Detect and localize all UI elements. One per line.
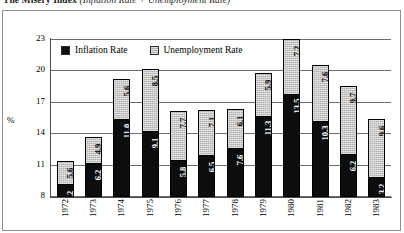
bar-group[interactable]: 4.96.2 <box>85 39 102 197</box>
bar-value-label: 7.6 <box>235 155 244 166</box>
x-tick-cell: 1982 <box>340 199 357 217</box>
x-axis-tick-labels: 1972197319741975197619771978197919801981… <box>51 199 391 233</box>
bar-value-label: 4.9 <box>93 144 102 155</box>
legend-label-unemployment: Unemployment Rate <box>164 45 243 55</box>
x-tick-cell: 1972 <box>57 199 74 217</box>
bar-group[interactable]: 5.911.3 <box>255 39 272 197</box>
bar-segment-unemployment[interactable]: 9.7 <box>340 86 357 154</box>
bar-segment-unemployment[interactable]: 7.6 <box>312 65 329 121</box>
bar-value-label: 7.1 <box>207 117 216 128</box>
bar-segment-unemployment[interactable]: 9.6 <box>368 119 385 177</box>
bar-value-label: 7.6 <box>320 72 329 83</box>
chart-title-main: The Misery Index <box>3 0 77 5</box>
bar-segment-inflation[interactable]: 11.3 <box>255 116 272 197</box>
x-tick-cell: 1974 <box>113 199 130 217</box>
bar-value-label: 6.5 <box>207 162 216 173</box>
y-axis-title: % <box>7 115 15 125</box>
bar-value-label: 6.2 <box>93 170 102 181</box>
chart-title: The Misery Index (Inflation Rate + Unemp… <box>3 0 230 5</box>
bar-value-label: 7.2 <box>292 46 301 57</box>
x-tick-cell: 1981 <box>312 199 329 217</box>
bar-value-label: 7.7 <box>178 118 187 129</box>
y-tick-label: 23 <box>36 34 45 43</box>
chart-frame: % 23201714118 Inflation Rate Unemploymen… <box>2 10 401 231</box>
x-tick-label: 1976 <box>170 199 187 217</box>
bar-value-label: 11.3 <box>263 121 272 135</box>
bar-segment-inflation[interactable]: 3.2 <box>368 177 385 197</box>
bar-segment-inflation[interactable]: 7.6 <box>227 148 244 197</box>
bar-segment-inflation[interactable]: 5.8 <box>170 160 187 197</box>
legend-entry-unemployment: Unemployment Rate <box>150 45 243 55</box>
x-tick-label: 1982 <box>340 199 357 217</box>
x-tick-label: 1978 <box>227 199 244 217</box>
bar-segment-unemployment[interactable]: 6.1 <box>227 109 244 148</box>
bar-segment-inflation[interactable]: 11.0 <box>113 119 130 197</box>
bar-group[interactable]: 7.610.3 <box>312 39 329 197</box>
bar-group[interactable]: 6.17.6 <box>227 39 244 197</box>
y-tick-label: 11 <box>36 160 45 169</box>
x-tick-label: 1979 <box>255 199 272 217</box>
bar-segment-inflation[interactable]: 6.5 <box>198 155 215 197</box>
x-tick-cell: 1980 <box>283 199 300 217</box>
x-tick-label: 1974 <box>113 199 130 217</box>
bar-value-label: 6.1 <box>235 116 244 127</box>
y-axis-tick-labels: 23201714118 <box>17 39 45 196</box>
x-tick-label: 1980 <box>283 199 300 217</box>
x-tick-cell: 1976 <box>170 199 187 217</box>
bar-value-label: 10.3 <box>320 126 329 141</box>
bar-value-label: 9.6 <box>377 126 386 137</box>
x-tick-cell: 1977 <box>198 199 215 217</box>
bar-value-label: 3.2 <box>65 191 74 197</box>
bar-series-container: 5.63.24.96.25.611.08.59.17.75.87.16.56.1… <box>51 39 391 197</box>
bar-group[interactable]: 9.63.2 <box>368 39 385 197</box>
bar-value-label: 11.0 <box>122 124 131 138</box>
bar-segment-unemployment[interactable]: 7.7 <box>170 111 187 160</box>
x-tick-label: 1973 <box>85 199 102 217</box>
x-tick-cell: 1978 <box>227 199 244 217</box>
bar-value-label: 6.2 <box>348 161 357 172</box>
chart-title-parenthetical: (Inflation Rate + Unemployment Rate) <box>79 0 230 5</box>
x-tick-label: 1977 <box>198 199 215 217</box>
bar-segment-inflation[interactable]: 13.5 <box>283 94 300 197</box>
bar-segment-unemployment[interactable]: 8.5 <box>142 69 159 131</box>
bar-segment-inflation[interactable]: 9.1 <box>142 131 159 197</box>
bar-value-label: 9.1 <box>150 138 159 149</box>
bar-value-label: 5.6 <box>65 168 74 179</box>
bar-segment-unemployment[interactable]: 4.9 <box>85 137 102 163</box>
legend-label-inflation: Inflation Rate <box>75 45 128 55</box>
bar-segment-unemployment[interactable]: 5.6 <box>113 79 130 119</box>
bar-segment-inflation[interactable]: 10.3 <box>312 121 329 197</box>
y-tick-label: 8 <box>41 191 46 200</box>
bar-group[interactable]: 8.59.1 <box>142 39 159 197</box>
bar-group[interactable]: 5.63.2 <box>57 39 74 197</box>
bar-segment-unemployment[interactable]: 7.1 <box>198 110 215 155</box>
black-square-icon <box>61 46 70 55</box>
bar-value-label: 13.5 <box>292 99 301 114</box>
bar-group[interactable]: 7.16.5 <box>198 39 215 197</box>
chart-legend: Inflation Rate Unemployment Rate <box>60 44 245 56</box>
bar-group[interactable]: 7.75.8 <box>170 39 187 197</box>
bar-segment-unemployment[interactable]: 7.2 <box>283 39 300 94</box>
bar-value-label: 5.8 <box>178 167 187 178</box>
y-tick-label: 14 <box>36 128 45 137</box>
y-tick-label: 17 <box>36 97 45 106</box>
legend-entry-inflation: Inflation Rate <box>61 45 128 55</box>
bar-group[interactable]: 9.76.2 <box>340 39 357 197</box>
bar-segment-unemployment[interactable]: 5.6 <box>57 161 74 184</box>
x-tick-cell: 1975 <box>142 199 159 217</box>
bar-group[interactable]: 5.611.0 <box>113 39 130 197</box>
x-tick-label: 1983 <box>368 199 385 217</box>
bar-segment-inflation[interactable]: 3.2 <box>57 184 74 197</box>
x-tick-cell: 1983 <box>368 199 385 217</box>
bar-segment-unemployment[interactable]: 5.9 <box>255 73 272 116</box>
x-tick-label: 1981 <box>312 199 329 217</box>
bar-segment-inflation[interactable]: 6.2 <box>85 163 102 197</box>
bar-group[interactable]: 7.213.5 <box>283 39 300 197</box>
x-axis-line <box>50 197 392 198</box>
y-tick-label: 20 <box>36 65 45 74</box>
bar-segment-inflation[interactable]: 6.2 <box>340 154 357 197</box>
bar-value-label: 5.9 <box>263 80 272 91</box>
bar-value-label: 9.7 <box>348 93 357 104</box>
x-tick-label: 1972 <box>57 199 74 217</box>
bar-value-label: 5.6 <box>122 86 131 97</box>
